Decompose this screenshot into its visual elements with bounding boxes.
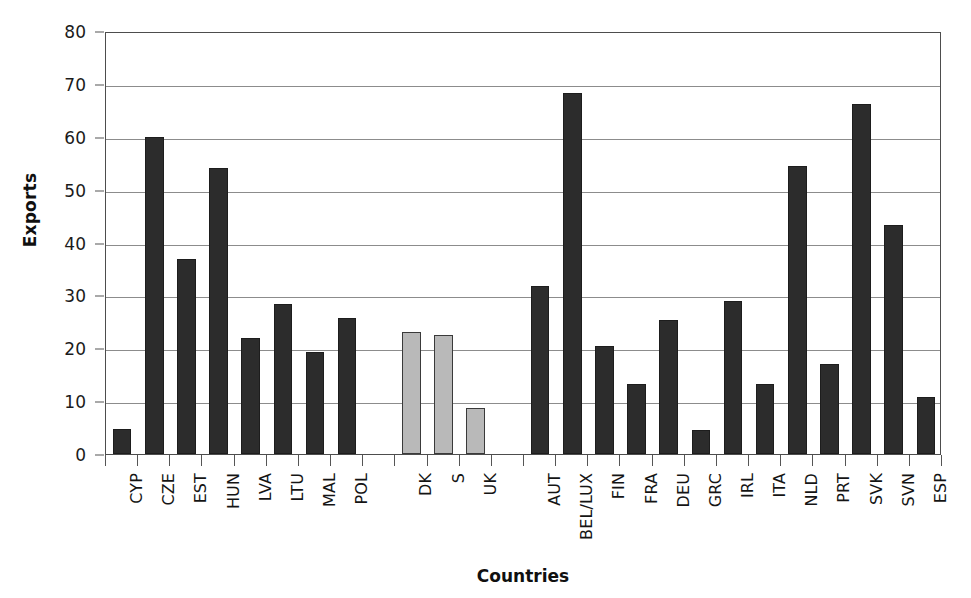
bar-svn <box>884 225 903 454</box>
bar-uk <box>466 408 485 454</box>
x-tick-mark <box>169 455 170 466</box>
bar-ltu <box>274 304 293 454</box>
y-tick-label: 50 <box>64 181 86 201</box>
bar-series <box>106 33 940 454</box>
bar-svk <box>852 104 871 454</box>
x-tick-label: UK <box>481 473 500 495</box>
x-tick-label: GRC <box>706 473 725 507</box>
x-tick-mark <box>298 455 299 466</box>
x-tick-label: CZE <box>159 473 178 506</box>
x-tick-mark <box>330 455 331 466</box>
y-tick-mark <box>95 84 104 85</box>
bar-nld <box>788 166 807 454</box>
x-tick-label: BEL/LUX <box>577 473 596 540</box>
x-tick-label: EST <box>191 473 210 503</box>
x-tick-label: SVK <box>867 473 886 505</box>
y-tick-label: 10 <box>64 392 86 412</box>
bar-deu <box>659 320 678 454</box>
bar-est <box>177 259 196 454</box>
x-tick-mark <box>909 455 910 466</box>
y-tick-mark <box>95 137 104 138</box>
x-tick-label: S <box>449 473 468 483</box>
bar-bel-lux <box>563 93 582 454</box>
x-tick-label: POL <box>352 473 371 504</box>
x-tick-mark <box>716 455 717 466</box>
bar-esp <box>917 397 936 454</box>
bar-hun <box>209 168 228 454</box>
x-tick-mark <box>459 455 460 466</box>
x-tick-mark <box>619 455 620 466</box>
bar-pol <box>338 318 357 454</box>
bar-cyp <box>113 429 132 454</box>
bar-fin <box>595 346 614 454</box>
x-tick-label: DK <box>416 473 435 496</box>
y-tick-mark <box>95 349 104 350</box>
y-tick-label: 0 <box>75 445 86 465</box>
x-tick-mark <box>491 455 492 466</box>
bar-grc <box>692 430 711 454</box>
bar-lva <box>241 338 260 454</box>
y-tick-label: 30 <box>64 286 86 306</box>
y-tick-label: 20 <box>64 339 86 359</box>
bar-cze <box>145 137 164 454</box>
x-tick-label: FRA <box>642 473 661 504</box>
x-tick-label: HUN <box>224 473 243 509</box>
bar-s <box>434 335 453 454</box>
x-tick-mark <box>748 455 749 466</box>
x-tick-mark <box>427 455 428 466</box>
x-tick-mark <box>877 455 878 466</box>
x-tick-mark <box>137 455 138 466</box>
x-tick-label: FIN <box>609 473 628 499</box>
y-tick-mark <box>95 32 104 33</box>
x-tick-label: LVA <box>256 473 275 501</box>
x-tick-label: PRT <box>834 473 853 503</box>
bar-chart: Exports 01020304050607080 CYPCZEESTHUNLV… <box>0 0 971 598</box>
x-tick-mark <box>812 455 813 466</box>
y-tick-label: 80 <box>64 22 86 42</box>
x-tick-mark <box>780 455 781 466</box>
bar-aut <box>531 286 550 454</box>
bar-ita <box>756 384 775 454</box>
bar-fra <box>627 384 646 454</box>
plot-area <box>105 32 941 455</box>
x-tick-label: SVN <box>899 473 918 506</box>
bar-mal <box>306 352 325 454</box>
bar-dk <box>402 332 421 454</box>
x-tick-label: IRL <box>738 473 757 498</box>
x-tick-mark <box>941 455 942 466</box>
y-tick-label: 40 <box>64 234 86 254</box>
y-tick-label: 70 <box>64 75 86 95</box>
x-tick-label: DEU <box>674 473 693 507</box>
x-tick-mark <box>362 455 363 466</box>
x-tick-mark <box>652 455 653 466</box>
y-axis: 01020304050607080 <box>0 0 100 598</box>
x-tick-label: ESP <box>931 473 950 503</box>
x-tick-mark <box>523 455 524 466</box>
y-tick-mark <box>95 455 104 456</box>
x-tick-mark <box>234 455 235 466</box>
x-tick-mark <box>105 455 106 466</box>
y-tick-mark <box>95 402 104 403</box>
y-tick-mark <box>95 296 104 297</box>
x-tick-label: LTU <box>288 473 307 502</box>
x-tick-label: NLD <box>802 473 821 507</box>
bar-prt <box>820 364 839 454</box>
x-tick-label: CYP <box>127 473 146 504</box>
x-tick-mark <box>684 455 685 466</box>
x-tick-mark <box>555 455 556 466</box>
x-tick-label: MAL <box>320 473 339 507</box>
y-tick-mark <box>95 243 104 244</box>
x-tick-label: AUT <box>545 473 564 506</box>
bar-irl <box>724 301 743 454</box>
x-tick-label: ITA <box>770 473 789 498</box>
x-tick-mark <box>266 455 267 466</box>
x-tick-mark <box>845 455 846 466</box>
x-tick-mark <box>587 455 588 466</box>
x-axis-title: Countries <box>105 566 941 586</box>
x-tick-mark <box>201 455 202 466</box>
x-tick-mark <box>394 455 395 466</box>
y-tick-label: 60 <box>64 128 86 148</box>
y-tick-mark <box>95 190 104 191</box>
